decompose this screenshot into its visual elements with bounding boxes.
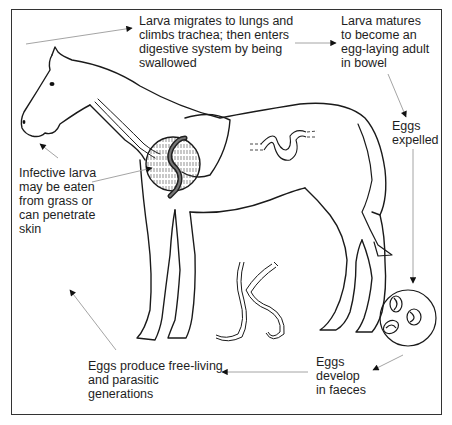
arrow-to-migrates [26,28,132,44]
label-eggs-expelled: Eggs expelled [392,119,439,147]
label-larva-migrates: Larva migrates to lungs and climbs trach… [139,14,293,70]
arrow-to-infective [70,290,116,350]
label-larva-matures: Larva matures to become an egg-laying ad… [341,14,429,70]
label-eggs-develop: Eggs develop in faeces [316,355,366,397]
arrow-to-expelled [388,74,406,117]
adult-worm-in-bowel [250,131,317,161]
label-infective-larva: Infective larva may be eaten from grass … [19,166,96,236]
arrow-to-develop [373,355,403,370]
free-living-worms [216,262,284,341]
lung-inset-with-larva [146,137,200,196]
arrow-to-mouth [40,144,58,158]
eggs-in-faeces-circle [380,290,436,346]
label-eggs-produce: Eggs produce free-living and parasitic g… [88,359,223,401]
arrow-to-lung [92,168,152,182]
